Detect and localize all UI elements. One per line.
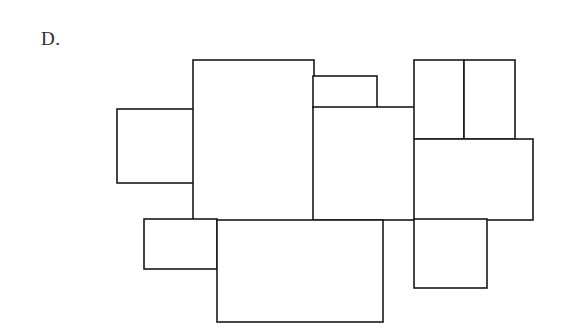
bottom-right-rect [414, 219, 487, 288]
top-right-right-rect [464, 60, 515, 139]
bottom-large-rect [217, 220, 383, 322]
figure-canvas: D. [0, 0, 583, 336]
left-small-rect [117, 109, 194, 183]
top-thin-rect [313, 76, 377, 108]
middle-right-rect [313, 107, 415, 220]
tall-center-rect [193, 60, 314, 221]
bottom-left-small-rect [144, 219, 217, 269]
rectangles-group [0, 0, 583, 336]
right-wide-rect [414, 139, 533, 220]
top-right-left-rect [414, 60, 464, 139]
